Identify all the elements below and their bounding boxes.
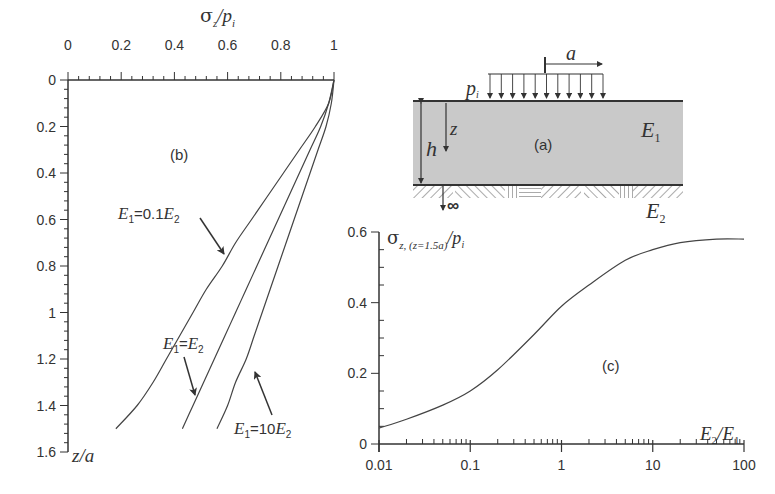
- curve-e1-10e2: [217, 80, 334, 429]
- svg-text:E1=10E2: E1=10E2: [233, 419, 292, 440]
- chart-b-x-tick-label: 1: [330, 37, 338, 53]
- chart-c-x-tick-label: 10: [645, 457, 661, 473]
- arrow-icon: [200, 218, 224, 254]
- panel-b-label: (b): [170, 146, 188, 163]
- load-label: pi: [464, 77, 479, 100]
- chart-b-x-tick-label: 0.8: [271, 37, 291, 53]
- panel-a-label: (a): [534, 136, 552, 153]
- chart-b-y-tick-label: 0.4: [37, 165, 57, 181]
- chart-c-curves: [379, 239, 744, 428]
- chart-b-y-axis-title: z/a: [71, 445, 94, 466]
- label-e1-10e2: E1=10E2: [233, 372, 292, 440]
- chart-b-x-tick-label: 0: [64, 37, 72, 53]
- thickness-label: h: [426, 136, 437, 161]
- chart-c-y-tick-label: 0.6: [348, 224, 368, 240]
- chart-c-y-axis-title: σz, (z=1.5a)/pi: [387, 227, 464, 252]
- chart-c-x-tick-label: 0.1: [461, 457, 481, 473]
- chart-b-x-tick-label: 0.4: [165, 37, 185, 53]
- layer2-label: E2: [645, 198, 665, 226]
- chart-b-y-tick-label: 1.6: [37, 444, 57, 460]
- chart-b-axes: 00.20.40.60.8100.20.40.60.811.21.41.6: [37, 37, 339, 460]
- arrow-icon: [184, 357, 195, 395]
- chart-b-y-tick-label: 0.8: [37, 258, 57, 274]
- chart-b-y-tick-label: 1.2: [37, 351, 57, 367]
- depth-label: z: [449, 118, 458, 139]
- chart-b-x-tick-label: 0.6: [218, 37, 238, 53]
- chart-c-y-tick-label: 0.4: [348, 295, 368, 311]
- chart-b-y-tick-label: 0.6: [37, 212, 57, 228]
- label-e1-0.1e2: E1=0.1E2: [117, 204, 224, 254]
- chart-c-x-axis-title: E2/E1: [699, 423, 740, 446]
- chart-c-axes: 0.010.111010000.20.40.6: [348, 224, 756, 473]
- chart-c-x-tick-label: 0.01: [365, 457, 392, 473]
- figure: 00.20.40.60.8100.20.40.60.811.21.41.6 σz…: [0, 0, 775, 494]
- chart-b-y-tick-label: 1: [48, 305, 56, 321]
- chart-b-curves: [116, 80, 334, 429]
- chart-b-y-tick-label: 0: [48, 72, 56, 88]
- curve-stress-ratio: [379, 239, 744, 428]
- chart-c-x-tick-label: 100: [732, 457, 756, 473]
- arrow-icon: [255, 372, 272, 415]
- diagram-a: pi a h z (a) E1 ∞ E2: [413, 42, 683, 226]
- chart-c-y-tick-label: 0: [359, 436, 367, 452]
- infinity-label: ∞: [447, 196, 459, 215]
- svg-text:E1=0.1E2: E1=0.1E2: [117, 204, 180, 225]
- chart-b-y-tick-label: 0.2: [37, 119, 57, 135]
- curve-e1-0.1e2: [116, 80, 334, 429]
- chart-b-y-tick-label: 1.4: [37, 398, 57, 414]
- label-e1-e2: E1=E2: [162, 334, 204, 395]
- svg-text:E1=E2: E1=E2: [162, 334, 204, 355]
- distributed-load: [488, 74, 603, 98]
- chart-c-x-tick-label: 1: [558, 457, 566, 473]
- chart-b-x-tick-label: 0.2: [111, 37, 131, 53]
- radius-label: a: [566, 42, 576, 64]
- chart-c: 0.010.111010000.20.40.6 σz, (z=1.5a)/pi …: [348, 224, 756, 473]
- chart-c-y-tick-label: 0.2: [348, 365, 368, 381]
- panel-c-label: (c): [602, 357, 620, 374]
- chart-b-x-axis-title: σz/pi: [200, 4, 235, 29]
- chart-b: 00.20.40.60.8100.20.40.60.811.21.41.6 σz…: [37, 4, 339, 466]
